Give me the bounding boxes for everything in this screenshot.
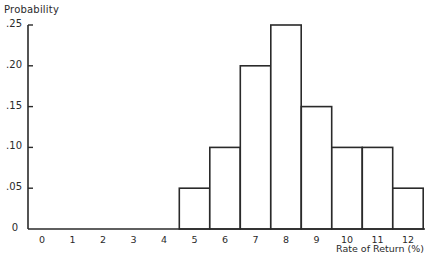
histogram-plot	[0, 0, 434, 258]
y-tick-label: 0	[0, 222, 18, 233]
y-tick-label: .05	[0, 181, 22, 192]
y-tick-label: .15	[0, 100, 22, 111]
histogram-bar	[179, 188, 209, 229]
histogram-bar	[362, 147, 392, 229]
x-tick-label: 5	[185, 234, 205, 245]
x-tick-label: 6	[215, 234, 235, 245]
histogram-bar	[393, 188, 423, 229]
y-tick-label: .25	[0, 18, 22, 29]
x-tick-label: 2	[93, 234, 113, 245]
y-tick-label: .10	[0, 140, 22, 151]
x-tick-label: 3	[124, 234, 144, 245]
histogram-bar	[332, 147, 362, 229]
histogram-bar	[210, 147, 240, 229]
histogram-bar	[240, 66, 270, 229]
x-tick-label: 8	[276, 234, 296, 245]
x-axis-title: Rate of Return (%)	[336, 243, 424, 254]
x-tick-label: 1	[63, 234, 83, 245]
histogram-bar	[301, 107, 331, 229]
y-tick-label: .20	[0, 59, 22, 70]
x-tick-label: 0	[32, 234, 52, 245]
x-tick-label: 7	[246, 234, 266, 245]
x-tick-label: 9	[307, 234, 327, 245]
x-tick-label: 4	[154, 234, 174, 245]
histogram-bar	[271, 25, 301, 229]
